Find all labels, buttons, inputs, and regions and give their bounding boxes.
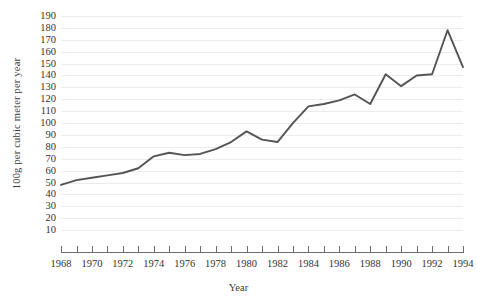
y-tick-label: 100 <box>26 118 56 129</box>
y-tick-label: 190 <box>26 11 56 22</box>
x-tick <box>185 246 186 253</box>
x-tick <box>77 246 78 253</box>
x-tick <box>401 246 402 253</box>
x-tick <box>417 246 418 253</box>
y-tick-label: 40 <box>26 189 56 200</box>
x-tick-label: 1970 <box>81 258 102 269</box>
x-tick-label: 1988 <box>360 258 381 269</box>
x-tick <box>61 246 62 253</box>
plot-area <box>61 10 463 242</box>
x-tick <box>448 246 449 253</box>
x-tick <box>355 246 356 253</box>
x-tick <box>324 246 325 253</box>
y-axis-tick-labels: 1901801701601501401301201101009080706050… <box>22 10 56 242</box>
x-tick <box>138 246 139 253</box>
x-tick <box>370 246 371 253</box>
x-tick <box>169 246 170 253</box>
x-axis-title: Year <box>0 282 477 293</box>
y-tick-label: 130 <box>26 82 56 93</box>
y-tick-label: 110 <box>26 106 56 117</box>
y-tick-label: 160 <box>26 47 56 58</box>
y-tick-label: 150 <box>26 59 56 70</box>
x-tick-label: 1976 <box>174 258 195 269</box>
x-tick-label: 1992 <box>422 258 443 269</box>
x-tick-label: 1974 <box>143 258 164 269</box>
x-tick <box>123 246 124 253</box>
y-tick-label: 20 <box>26 213 56 224</box>
x-tick-label: 1978 <box>205 258 226 269</box>
data-line-series <box>61 10 463 242</box>
x-tick-label: 1994 <box>453 258 474 269</box>
x-tick-label: 1982 <box>267 258 288 269</box>
x-tick <box>339 246 340 253</box>
y-tick-label: 90 <box>26 130 56 141</box>
x-tick <box>200 246 201 253</box>
y-tick-label: 70 <box>26 154 56 165</box>
x-tick <box>216 246 217 253</box>
x-tick <box>386 246 387 253</box>
x-tick <box>247 246 248 253</box>
x-tick-label: 1984 <box>298 258 319 269</box>
x-tick <box>278 246 279 253</box>
series-polyline <box>61 30 463 185</box>
x-tick <box>293 246 294 253</box>
y-axis-title: 100g per cubic meter per year <box>11 34 22 214</box>
y-tick-label: 50 <box>26 178 56 189</box>
x-tick <box>92 246 93 253</box>
y-tick-label: 10 <box>26 225 56 236</box>
x-tick <box>262 246 263 253</box>
x-tick <box>231 246 232 253</box>
y-tick-label: 120 <box>26 94 56 105</box>
x-tick <box>432 246 433 253</box>
x-tick <box>154 246 155 253</box>
x-tick-label: 1986 <box>329 258 350 269</box>
x-tick <box>308 246 309 253</box>
line-chart: 100g per cubic meter per year 1901801701… <box>0 0 477 303</box>
y-tick-label: 30 <box>26 201 56 212</box>
x-tick <box>107 246 108 253</box>
x-tick-label: 1990 <box>391 258 412 269</box>
x-tick-label: 1972 <box>112 258 133 269</box>
x-tick-label: 1968 <box>51 258 72 269</box>
x-tick-label: 1980 <box>236 258 257 269</box>
y-tick-label: 60 <box>26 166 56 177</box>
y-tick-label: 180 <box>26 23 56 34</box>
y-tick-label: 140 <box>26 70 56 81</box>
y-tick-label: 170 <box>26 35 56 46</box>
x-tick <box>463 246 464 253</box>
y-tick-label: 80 <box>26 142 56 153</box>
